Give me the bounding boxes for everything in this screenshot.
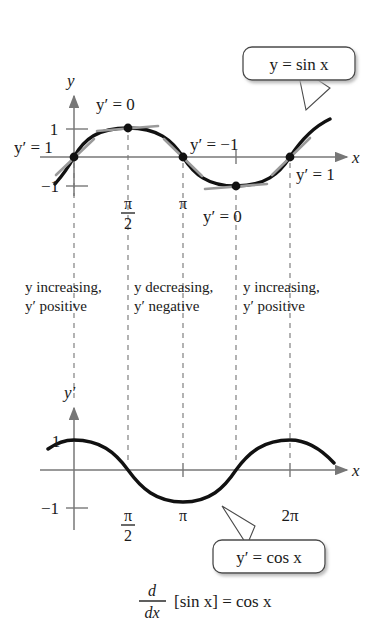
- upper-y-axis-label: y: [65, 71, 75, 90]
- annotation-2-line2: y′ positive: [243, 298, 305, 314]
- slope-label-max: y′ = 0: [96, 95, 135, 114]
- figure-background: [0, 0, 381, 632]
- annotation-0-line1: y increasing,: [25, 279, 102, 295]
- upper-ytick-label-neg1: −1: [41, 177, 59, 196]
- annotation-1-line2: y′ negative: [134, 298, 200, 314]
- lower-ytick-label-neg1: −1: [41, 499, 59, 518]
- upper-xtick-pi-over-2-num: π: [124, 195, 132, 212]
- callout-sine-text: y = sin x: [269, 55, 329, 74]
- slope-label-mid-zero: y′ = −1: [190, 135, 238, 154]
- lower-x-axis-label: x: [351, 461, 360, 480]
- formula-numerator: d: [148, 582, 157, 599]
- annotation-0-line2: y′ positive: [25, 298, 87, 314]
- formula-denominator: dx: [144, 604, 159, 621]
- upper-xtick-pi-over-2-den: 2: [124, 215, 132, 232]
- point-min: [232, 182, 241, 191]
- point-2pi: [286, 153, 295, 162]
- derivative-of-sine-figure: y x 1 −1 π 2 π y′ = 1 y′ = 0 y′ = −1 y′ …: [0, 0, 381, 632]
- slope-label-min: y′ = 0: [203, 207, 242, 226]
- lower-ytick-label-1: 1: [52, 432, 61, 451]
- upper-x-axis-label: x: [351, 148, 360, 167]
- annotation-2-line1: y increasing,: [243, 279, 320, 295]
- upper-xtick-label-pi: π: [179, 195, 187, 212]
- callout-cosine-text: y′ = cos x: [236, 548, 302, 567]
- lower-y-axis-label: y′: [62, 383, 76, 402]
- annotation-1-line1: y decreasing,: [134, 279, 213, 295]
- slope-label-right-zero: y′ = 1: [296, 165, 335, 184]
- point-max: [124, 124, 133, 133]
- slope-label-left-zero: y′ = 1: [14, 138, 53, 157]
- point-x0: [70, 153, 79, 162]
- point-pi: [179, 153, 188, 162]
- lower-xtick-label-pi: π: [179, 507, 187, 524]
- lower-xtick-label-2pi: 2π: [281, 506, 299, 525]
- formula-body: [sin x] = cos x: [174, 592, 272, 611]
- lower-xtick-pi-over-2-den: 2: [124, 527, 132, 544]
- upper-ytick-label-1: 1: [50, 120, 59, 139]
- lower-xtick-pi-over-2-num: π: [124, 507, 132, 524]
